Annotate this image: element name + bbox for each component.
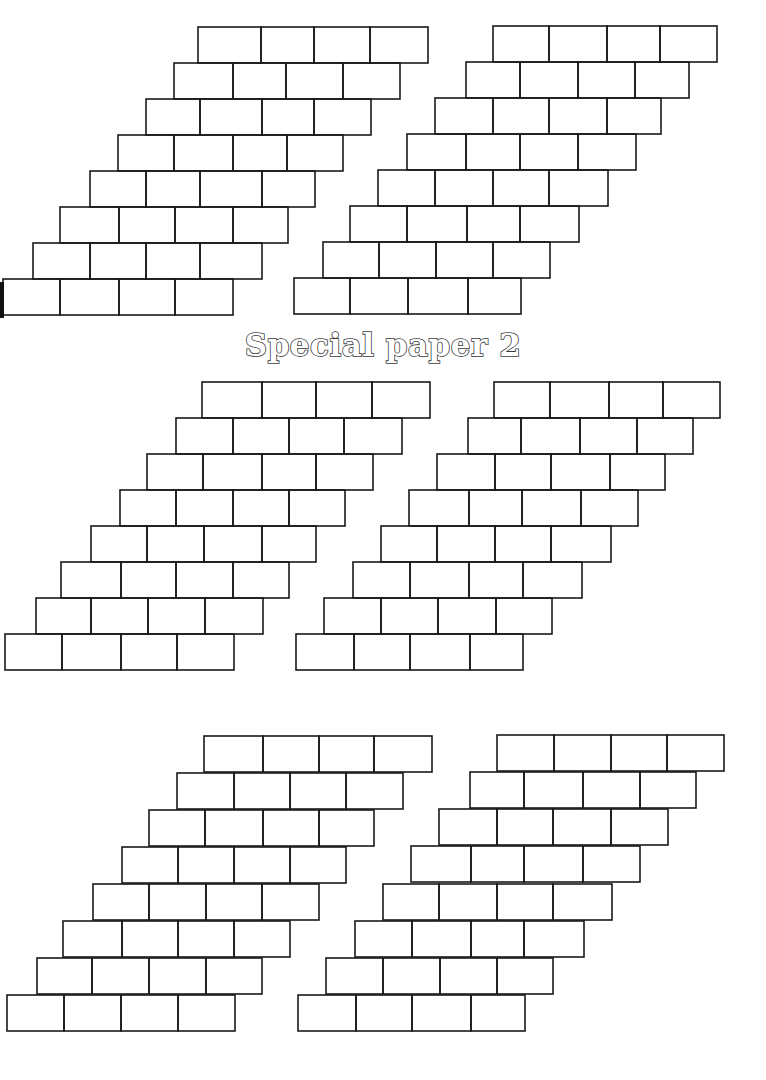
brick-cell — [233, 63, 286, 99]
brick-cell — [438, 598, 496, 634]
brick-cell — [520, 62, 578, 98]
brick-cell — [36, 598, 91, 634]
brick-cell — [471, 846, 524, 882]
brick-cell — [205, 810, 263, 846]
brick-cell — [60, 279, 119, 315]
brick-row — [204, 736, 432, 772]
brick-row — [497, 735, 724, 771]
brick-row — [36, 598, 263, 634]
brick-cell — [233, 490, 289, 526]
brick-row — [323, 242, 550, 278]
brick-cell — [469, 562, 523, 598]
brick-row — [177, 773, 403, 809]
brick-cell — [580, 418, 637, 454]
brick-cell — [374, 736, 432, 772]
brick-cell — [63, 921, 122, 957]
brick-row — [174, 63, 400, 99]
brick-row — [146, 99, 371, 135]
brick-cell — [92, 958, 149, 994]
brick-cell — [93, 884, 149, 920]
brick-cell — [553, 884, 612, 920]
brick-cell — [118, 135, 174, 171]
brick-cell — [203, 454, 262, 490]
brick-cell — [326, 958, 383, 994]
brick-row — [202, 382, 430, 418]
brick-cell — [493, 98, 549, 134]
brick-cell — [381, 598, 438, 634]
grid-middle-right — [296, 382, 720, 670]
brick-cell — [468, 278, 521, 314]
brick-cell — [407, 134, 466, 170]
brick-row — [468, 418, 693, 454]
brick-cell — [122, 847, 178, 883]
brick-cell — [408, 278, 468, 314]
brick-row — [176, 418, 402, 454]
brick-cell — [119, 279, 175, 315]
brick-cell — [383, 958, 440, 994]
brick-cell — [607, 98, 661, 134]
brick-row — [355, 921, 584, 957]
brick-cell — [378, 170, 435, 206]
brick-cell — [120, 490, 176, 526]
brick-row — [294, 278, 521, 314]
brick-cell — [435, 170, 493, 206]
brick-cell — [178, 921, 234, 957]
brick-cell — [64, 995, 121, 1031]
grid-middle-left — [5, 382, 430, 670]
grid-bottom-right — [298, 735, 724, 1031]
brick-cell — [198, 27, 261, 63]
brick-grids-canvas — [0, 0, 766, 1080]
brick-cell — [496, 598, 552, 634]
brick-cell — [412, 921, 471, 957]
brick-cell — [204, 526, 262, 562]
brick-row — [466, 62, 689, 98]
brick-cell — [578, 62, 635, 98]
brick-cell — [607, 26, 660, 62]
worksheet-page: Special paper 2 — [0, 0, 766, 1080]
brick-cell — [33, 243, 90, 279]
brick-cell — [493, 26, 549, 62]
brick-cell — [323, 242, 379, 278]
grid-top-left — [3, 27, 428, 315]
brick-cell — [469, 490, 522, 526]
brick-cell — [379, 242, 436, 278]
brick-row — [93, 884, 319, 920]
brick-cell — [412, 995, 471, 1031]
brick-row — [120, 490, 345, 526]
brick-cell — [261, 27, 314, 63]
brick-cell — [296, 634, 354, 670]
brick-cell — [146, 99, 200, 135]
brick-cell — [147, 454, 203, 490]
brick-cell — [60, 207, 119, 243]
brick-cell — [355, 921, 412, 957]
brick-cell — [262, 454, 316, 490]
brick-cell — [497, 809, 553, 845]
brick-cell — [289, 418, 344, 454]
brick-row — [3, 279, 233, 315]
brick-cell — [524, 921, 584, 957]
brick-cell — [319, 736, 374, 772]
brick-row — [324, 598, 552, 634]
brick-row — [147, 454, 373, 490]
brick-cell — [204, 736, 263, 772]
brick-cell — [553, 809, 611, 845]
brick-cell — [372, 382, 430, 418]
brick-cell — [174, 63, 233, 99]
brick-cell — [147, 526, 204, 562]
brick-cell — [523, 562, 582, 598]
brick-cell — [583, 846, 640, 882]
brick-cell — [234, 773, 290, 809]
brick-cell — [286, 63, 343, 99]
brick-cell — [206, 958, 262, 994]
brick-cell — [437, 454, 495, 490]
brick-cell — [262, 526, 316, 562]
brick-row — [37, 958, 262, 994]
brick-cell — [149, 884, 206, 920]
brick-cell — [495, 454, 551, 490]
brick-cell — [354, 634, 410, 670]
brick-cell — [206, 884, 262, 920]
brick-cell — [383, 884, 439, 920]
brick-cell — [667, 735, 724, 771]
brick-cell — [234, 847, 290, 883]
brick-row — [33, 243, 262, 279]
